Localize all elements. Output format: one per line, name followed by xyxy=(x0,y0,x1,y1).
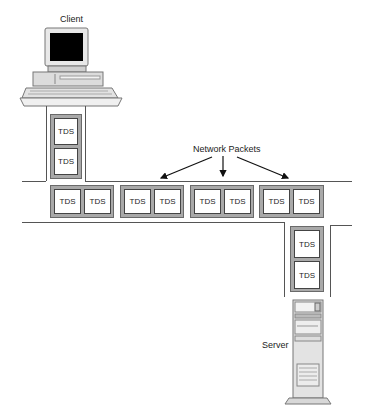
channel-bottom-line xyxy=(22,222,284,223)
channel-bottom-right-line xyxy=(330,225,352,226)
network-packet-1: TDS TDS xyxy=(50,185,114,218)
server-channel-left-line xyxy=(284,222,285,297)
tds-cell: TDS xyxy=(263,189,290,214)
tds-cell: TDS xyxy=(194,189,221,214)
tds-cell: TDS xyxy=(54,148,78,175)
arrow-icon xyxy=(237,157,288,178)
tds-cell: TDS xyxy=(54,189,81,214)
server-label: Server xyxy=(262,340,289,350)
network-packet-2: TDS TDS xyxy=(120,185,184,218)
tds-cell: TDS xyxy=(124,189,151,214)
server-packet: TDS TDS xyxy=(290,226,324,292)
client-packet: TDS TDS xyxy=(50,114,82,179)
tds-cell: TDS xyxy=(224,189,251,214)
channel-top-line xyxy=(85,181,352,182)
arrow-icon xyxy=(161,157,212,178)
network-packets-label: Network Packets xyxy=(193,144,261,154)
tds-cell: TDS xyxy=(84,189,111,214)
tds-cell: TDS xyxy=(54,118,78,145)
client-computer-icon xyxy=(0,0,130,100)
client-channel-left-line xyxy=(46,106,47,181)
server-channel-right-line xyxy=(330,225,331,297)
tds-cell: TDS xyxy=(293,189,320,214)
network-packet-3: TDS TDS xyxy=(190,185,254,218)
tds-cell: TDS xyxy=(294,261,320,289)
channel-top-left-line xyxy=(22,181,46,182)
tds-cell: TDS xyxy=(154,189,181,214)
network-packet-4: TDS TDS xyxy=(259,185,324,218)
tds-cell: TDS xyxy=(294,230,320,258)
client-channel-right-line xyxy=(85,106,86,181)
